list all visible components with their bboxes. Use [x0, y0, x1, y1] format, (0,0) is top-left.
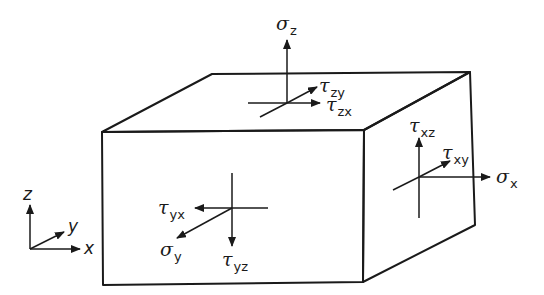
y-axis-arrow — [30, 232, 64, 249]
x-axis-label: x — [84, 240, 94, 257]
symbol: σ — [160, 238, 173, 260]
subscript: yx — [170, 207, 185, 222]
tau-zy-arrow — [287, 87, 317, 103]
symbol: σ — [276, 12, 289, 34]
sigma-y-label: σy — [160, 240, 182, 259]
y-axis-label: y — [68, 218, 78, 235]
symbol: τ — [222, 248, 233, 270]
subscript: xy — [454, 152, 469, 167]
front-face-stresses — [177, 173, 268, 246]
symbol: σ — [496, 165, 509, 187]
tau-yx-label: τyx — [158, 198, 185, 217]
sigma-z-label: σz — [276, 14, 297, 33]
symbol: τ — [326, 93, 337, 115]
sigma-x-label: σx — [496, 167, 518, 186]
tau-xy-label: τxy — [442, 143, 469, 162]
symbol: τ — [442, 141, 453, 163]
subscript: z — [290, 23, 297, 38]
tau-yz-label: τyz — [222, 250, 248, 269]
subscript: xz — [421, 125, 436, 140]
right-diagonal-line — [393, 177, 419, 190]
tau-xz-label: τxz — [409, 116, 435, 135]
subscript: y — [174, 249, 182, 264]
top-diagonal-line — [260, 103, 287, 117]
subscript: zx — [338, 104, 353, 119]
tau-xy-arrow — [419, 161, 450, 177]
subscript: yz — [234, 259, 249, 274]
subscript: x — [510, 176, 518, 191]
symbol: τ — [409, 114, 420, 136]
tau-zx-label: τzx — [326, 95, 352, 114]
sigma-y-arrow — [177, 208, 232, 238]
z-axis-label: z — [23, 186, 32, 203]
top-face-stresses — [248, 40, 320, 117]
symbol: τ — [158, 196, 169, 218]
